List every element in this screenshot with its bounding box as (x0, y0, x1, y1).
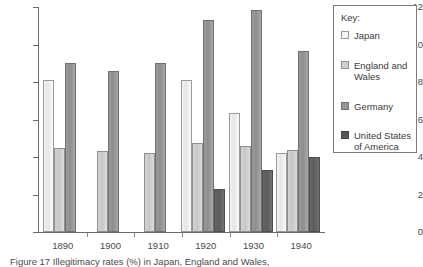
bar-1940-series-0 (276, 153, 287, 232)
y-axis-tick-label: 4 (397, 152, 423, 161)
x-axis-label-1920: 1920 (181, 241, 231, 251)
bar-1900-series-2 (108, 71, 119, 232)
y-axis-tick-label: 2 (397, 190, 423, 199)
bar-1930-series-3 (262, 170, 273, 232)
x-axis-tick (87, 233, 88, 237)
legend-item-label: United States of America (354, 130, 411, 152)
legend-swatch-icon (341, 61, 349, 69)
chart-legend: Key: JapanEngland and WalesGermanyUnited… (333, 5, 417, 153)
x-axis-label-1890: 1890 (38, 241, 88, 251)
bar-1900-series-1 (97, 151, 108, 232)
legend-item-2[interactable]: Germany (341, 101, 393, 112)
bar-1930-series-2 (251, 10, 262, 232)
legend-item-0[interactable]: Japan (341, 30, 380, 41)
y-axis-line (38, 7, 39, 233)
bar-1940-series-2 (298, 51, 309, 232)
figure-caption: Figure 17 Illegitimacy rates (%) in Japa… (10, 256, 420, 267)
legend-item-1[interactable]: England and Wales (341, 60, 407, 82)
y-axis-tick (33, 157, 38, 158)
legend-item-label: Germany (354, 101, 393, 112)
bar-1940-series-3 (309, 157, 320, 232)
bar-1890-series-0 (43, 80, 54, 232)
legend-item-label: Japan (354, 30, 380, 41)
x-axis-tick (230, 233, 231, 237)
y-axis-tick (33, 7, 38, 8)
bar-1930-series-1 (240, 146, 251, 232)
legend-swatch-icon (341, 131, 349, 139)
bar-1930-series-0 (229, 113, 240, 232)
legend-swatch-icon (341, 102, 349, 110)
y-axis-tick (33, 232, 38, 233)
bar-1890-series-2 (65, 63, 76, 232)
legend-title: Key: (341, 12, 360, 23)
y-axis-tick (33, 120, 38, 121)
x-axis-tick (277, 233, 278, 237)
x-axis-label-1910: 1910 (133, 241, 183, 251)
x-axis-label-1940: 1940 (276, 241, 326, 251)
y-axis-tick (33, 82, 38, 83)
legend-item-3[interactable]: United States of America (341, 130, 411, 152)
bar-1940-series-1 (287, 150, 298, 233)
x-axis-label-1930: 1930 (229, 241, 279, 251)
legend-swatch-icon (341, 31, 349, 39)
x-axis-tick (134, 233, 135, 237)
bar-1910-series-1 (144, 153, 155, 232)
bar-1920-series-2 (203, 20, 214, 232)
bar-1920-series-1 (192, 143, 203, 232)
bar-1920-series-0 (181, 80, 192, 232)
bar-1890-series-1 (54, 148, 65, 232)
y-axis-tick (33, 45, 38, 46)
bar-1910-series-2 (155, 63, 166, 232)
x-axis-label-1900: 1900 (86, 241, 136, 251)
y-axis-tick (33, 195, 38, 196)
legend-item-label: England and Wales (354, 60, 407, 82)
x-axis-tick (182, 233, 183, 237)
bar-1920-series-3 (214, 189, 225, 232)
y-axis-tick-label: 0 (397, 227, 423, 236)
